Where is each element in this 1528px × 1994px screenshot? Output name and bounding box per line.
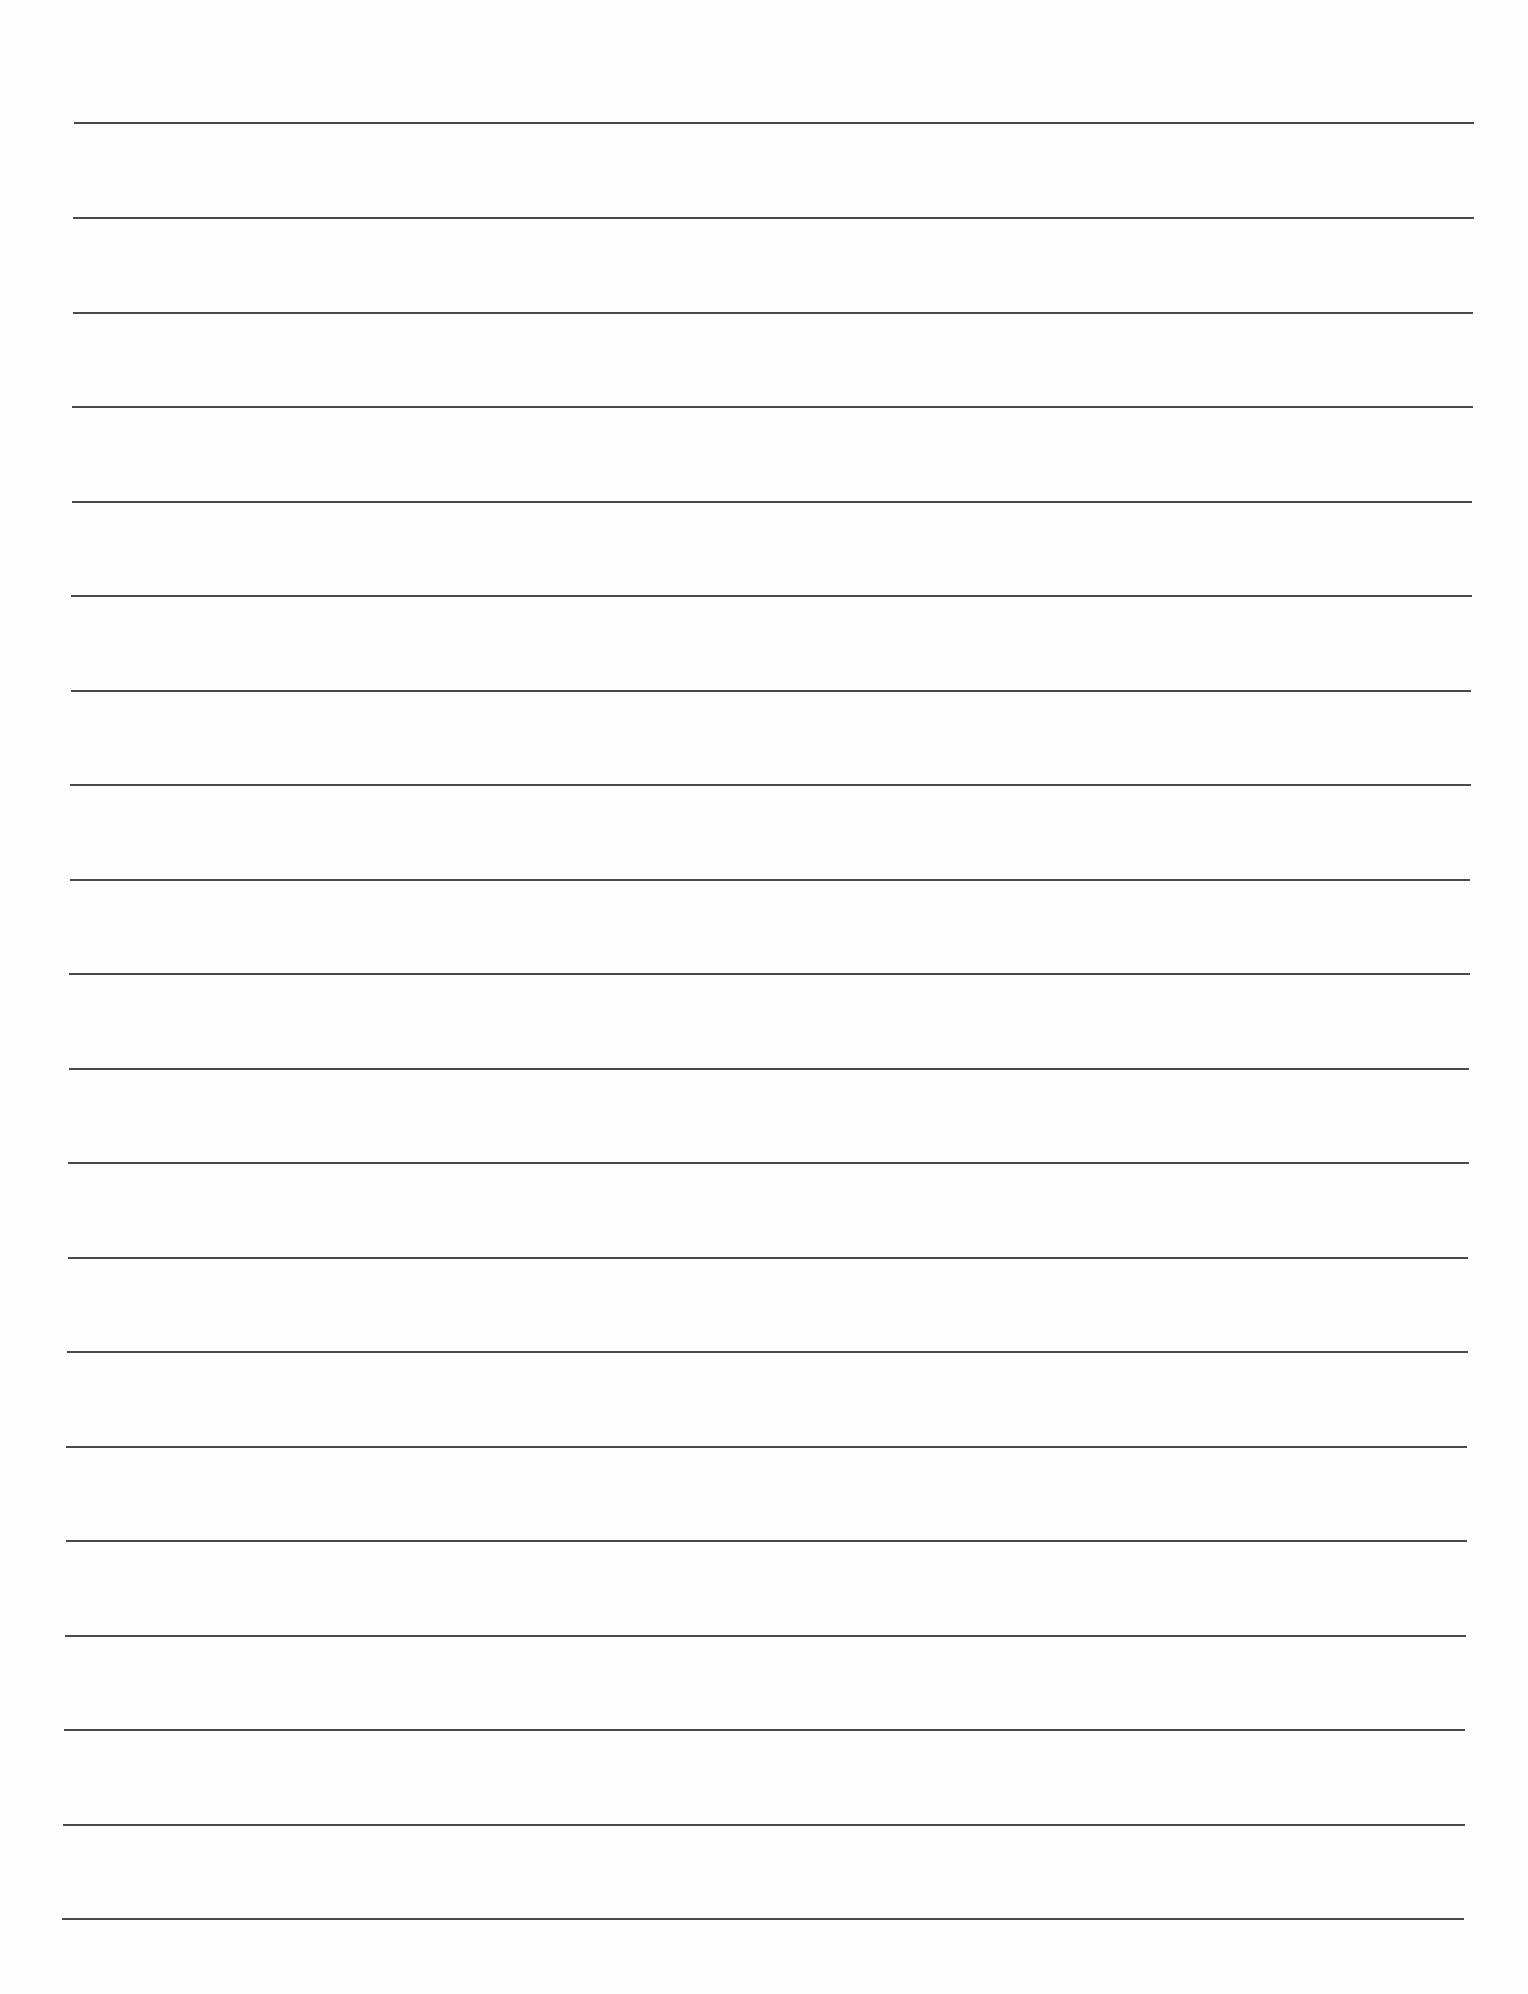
ruled-line [68,1257,1468,1259]
ruled-line [74,122,1474,124]
ruled-line [71,595,1472,597]
ruled-line [68,1162,1469,1164]
ruled-line [69,973,1470,975]
ruled-line [63,1824,1465,1826]
ruled-line [73,217,1474,219]
ruled-line [67,1351,1468,1353]
ruled-line [66,1446,1467,1448]
ruled-line [69,1068,1469,1070]
ruled-line [72,406,1473,408]
ruled-line [65,1635,1466,1637]
ruled-line [64,1729,1465,1731]
ruled-line [72,501,1472,503]
ruled-line [66,1540,1467,1542]
lined-paper-sheet [0,0,1528,1994]
ruled-line [62,1918,1464,1920]
ruled-line [71,690,1471,692]
ruled-line [70,784,1471,786]
ruled-line [70,879,1470,881]
ruled-line [73,312,1473,314]
